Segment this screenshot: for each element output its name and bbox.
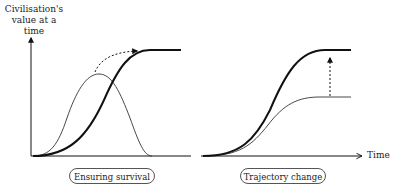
panel-label-ensuring-survival: Ensuring survival bbox=[69, 168, 155, 184]
x-axis-label: Time bbox=[367, 150, 390, 160]
left-bold-s-curve bbox=[33, 50, 181, 156]
diagram-graphics bbox=[0, 0, 399, 196]
right-bold-s-curve bbox=[203, 50, 351, 156]
diagram: Civilisation's value at a time bbox=[0, 0, 399, 196]
right-thin-s-curve bbox=[203, 97, 351, 156]
panel-label-trajectory-change: Trajectory change bbox=[240, 168, 326, 184]
left-thin-bell-curve bbox=[33, 74, 152, 156]
left-dashed-arrow bbox=[95, 51, 137, 72]
